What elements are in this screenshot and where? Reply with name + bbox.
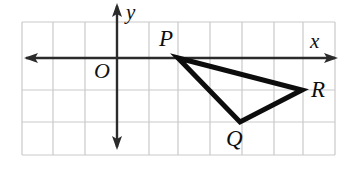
- y-axis: [112, 3, 122, 150]
- vertex-label-p: P: [159, 27, 173, 50]
- x-axis-label: x: [310, 31, 319, 52]
- y-axis-label: y: [126, 2, 135, 23]
- vertex-label-r: R: [311, 78, 325, 101]
- coordinate-plane-figure: x y O P Q R: [0, 0, 350, 169]
- origin-label: O: [94, 60, 110, 82]
- vertex-label-q: Q: [226, 127, 243, 150]
- figure-canvas: [0, 0, 350, 169]
